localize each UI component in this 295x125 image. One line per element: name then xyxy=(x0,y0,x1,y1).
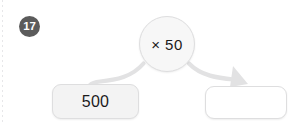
input-value-label: 500 xyxy=(82,93,110,111)
worksheet-page: 17 × 50 500 xyxy=(0,0,295,125)
right-arrow-connector xyxy=(189,64,234,80)
output-answer-box[interactable] xyxy=(205,86,287,119)
operator-node: × 50 xyxy=(139,16,195,72)
multiply-operator-label: × 50 xyxy=(151,36,183,53)
right-arrowhead-icon xyxy=(230,66,248,87)
input-value-box: 500 xyxy=(52,84,139,119)
left-arc-connector xyxy=(90,64,144,86)
